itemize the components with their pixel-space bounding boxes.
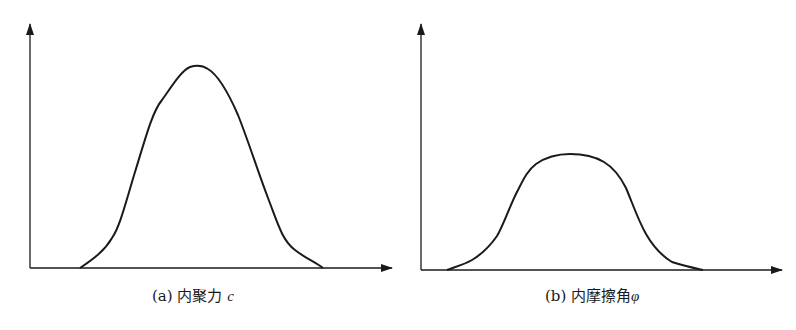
panel-b-caption-text: (b) 内摩擦角 xyxy=(545,287,631,305)
panel-a-caption-text: (a) 内聚力 xyxy=(152,287,222,305)
panel-b-curve xyxy=(447,154,703,270)
diagram-canvas xyxy=(0,0,796,330)
panel-a-caption-symbol: c xyxy=(227,288,234,304)
panel-b-caption-symbol: φ xyxy=(631,288,639,304)
panel-a-curve xyxy=(80,66,323,268)
panel-b-caption: (b) 内摩擦角φ xyxy=(545,284,639,305)
panel-a-cohesion xyxy=(30,24,392,268)
panel-a-caption: (a) 内聚力 c xyxy=(152,284,234,305)
panel-b-friction-angle xyxy=(421,24,782,270)
